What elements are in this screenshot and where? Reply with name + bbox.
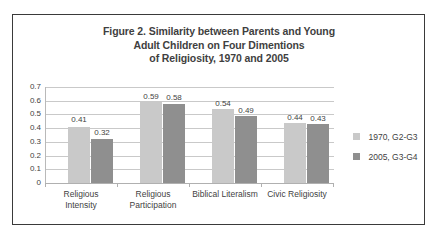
category-label-religious-participation-line-2: Participation (117, 200, 189, 211)
y-tick-label-0.5: 0.5 (15, 110, 41, 118)
figure-frame: Figure 2. Similarity between Parents and… (12, 14, 425, 225)
chart-legend: 1970, G2-G3 2005, G3-G4 (353, 127, 418, 167)
bar-1970-biblical-literalism[interactable] (212, 109, 234, 183)
y-tick-label-0.7: 0.7 (15, 83, 41, 91)
y-tick-label-0.6: 0.6 (15, 97, 41, 105)
y-tick-label-0.2: 0.2 (15, 152, 41, 160)
category-label-religious-intensity-line-1: Religious (45, 189, 117, 200)
x-tick-4 (333, 183, 334, 187)
y-tick-label-0.3: 0.3 (15, 138, 41, 146)
category-label-biblical-literalism: Biblical Literalism (189, 189, 261, 200)
category-label-religious-intensity: Religious Intensity (45, 189, 117, 210)
y-tick-label-0: 0 (15, 179, 41, 187)
bar-group-religious-participation: 0.59 0.58 (140, 87, 185, 183)
category-label-religious-intensity-line-2: Intensity (45, 200, 117, 211)
bar-2005-civic-religiosity[interactable] (307, 124, 329, 183)
y-tick-label-0.1: 0.1 (15, 165, 41, 173)
chart-title-line-2: Adult Children on Four Dimentions (31, 39, 407, 53)
bar-1970-religious-intensity[interactable] (68, 127, 90, 183)
bar-group-civic-religiosity: 0.44 0.43 (284, 87, 329, 183)
bar-1970-religious-participation[interactable] (140, 102, 162, 183)
chart-title: Figure 2. Similarity between Parents and… (31, 25, 407, 66)
bar-value-2005-religious-intensity: 0.32 (89, 129, 115, 137)
category-label-civic-religiosity-line-1: Civic Religiosity (261, 189, 333, 200)
category-label-civic-religiosity: Civic Religiosity (261, 189, 333, 200)
bar-1970-civic-religiosity[interactable] (284, 123, 306, 183)
x-tick-0 (45, 183, 46, 187)
bar-group-biblical-literalism: 0.54 0.49 (212, 87, 257, 183)
category-label-religious-participation-line-1: Religious (117, 189, 189, 200)
bar-2005-biblical-literalism[interactable] (235, 116, 257, 183)
bar-value-2005-biblical-literalism: 0.49 (233, 107, 259, 115)
legend-swatch-2005-icon (353, 153, 360, 160)
x-tick-1 (117, 183, 118, 187)
bar-2005-religious-intensity[interactable] (91, 139, 113, 183)
bar-group-religious-intensity: 0.41 0.32 (68, 87, 113, 183)
plot-area: 0.41 0.32 0.59 0.58 0.54 0.49 0. (45, 87, 334, 183)
chart-title-line-1: Figure 2. Similarity between Parents and… (31, 25, 407, 39)
legend-label-2005: 2005, G3-G4 (368, 152, 417, 162)
y-tick-label-0.4: 0.4 (15, 124, 41, 132)
x-tick-3 (261, 183, 262, 187)
category-label-biblical-literalism-line-1: Biblical Literalism (189, 189, 261, 200)
bar-value-1970-religious-intensity: 0.41 (66, 116, 92, 124)
bar-value-2005-religious-participation: 0.58 (161, 94, 187, 102)
bar-value-2005-civic-religiosity: 0.43 (305, 115, 331, 123)
legend-item-1970[interactable]: 1970, G2-G3 (353, 127, 418, 147)
chart-title-line-3: of Religiosity, 1970 and 2005 (31, 52, 407, 66)
clipped-text-strip: ·· · (0, 0, 441, 12)
legend-label-1970: 1970, G2-G3 (368, 132, 417, 142)
bar-2005-religious-participation[interactable] (163, 104, 185, 184)
clipped-text: ·· · (110, 0, 131, 1)
legend-item-2005[interactable]: 2005, G3-G4 (353, 147, 418, 167)
legend-swatch-1970-icon (353, 133, 360, 140)
category-label-religious-participation: Religious Participation (117, 189, 189, 210)
x-tick-2 (189, 183, 190, 187)
figure-root: ·· · Figure 2. Similarity between Parent… (0, 0, 441, 243)
